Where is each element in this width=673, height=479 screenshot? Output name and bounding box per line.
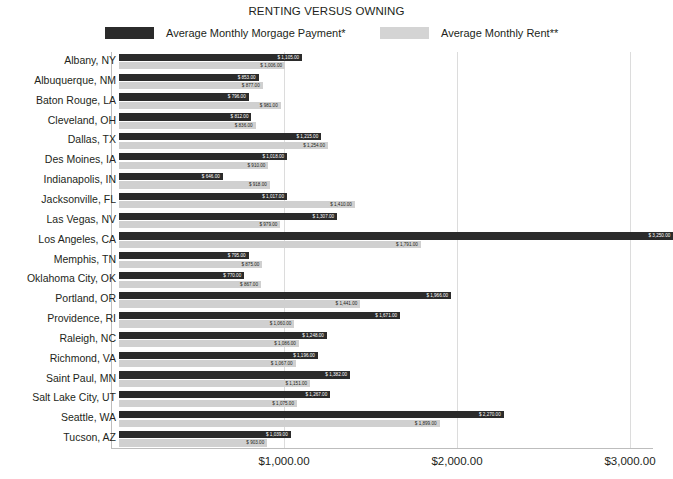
bar-value-label: $ 1,105.00 (276, 54, 300, 61)
bar-rent: $ 1,075.00 (119, 400, 297, 407)
bar-value-label: $ 979.00 (258, 221, 278, 228)
chart-row: Oklahoma City, OK$ 770.00$ 867.00 (0, 270, 653, 290)
bar-value-label: $ 3,250.00 (648, 232, 672, 239)
bar-value-label: $ 812.00 (230, 113, 250, 120)
legend-swatch-mortgage (105, 27, 154, 39)
bar-value-label: $ 1,441.00 (335, 300, 359, 307)
chart-row: Tucson, AZ$ 1,039.00$ 903.00 (0, 429, 653, 449)
bar-value-label: $ 646.00 (201, 173, 221, 180)
bar-value-label: $ 981.00 (259, 102, 279, 109)
bar-rent: $ 1,899.00 (119, 420, 440, 427)
chart-row: Portland, OR$ 1,966.00$ 1,441.00 (0, 290, 653, 310)
category-label: Portland, OR (0, 292, 116, 304)
category-label: Albany, NY (0, 54, 116, 66)
bar-value-label: $ 1,086.00 (273, 340, 297, 347)
category-label: Oklahoma City, OK (0, 272, 116, 284)
category-label: Jacksonville, FL (0, 193, 116, 205)
chart-row: Jacksonville, FL$ 1,017.00$ 1,410.00 (0, 191, 653, 211)
chart-row: Richmond, VA$ 1,196.00$ 1,067.00 (0, 350, 653, 370)
bar-rent: $ 910.00 (119, 162, 268, 169)
category-label: Memphis, TN (0, 253, 116, 265)
bar-mortgage: $ 812.00 (119, 113, 251, 120)
bar-value-label: $ 1,410.00 (329, 201, 353, 208)
bar-value-label: $ 1,966.00 (425, 292, 449, 299)
category-label: Cleveland, OH (0, 114, 116, 126)
bar-rent: $ 1,086.00 (119, 340, 299, 347)
bar-value-label: $ 1,067.00 (270, 360, 294, 367)
bar-rent: $ 1,060.00 (119, 320, 294, 327)
bar-mortgage: $ 3,250.00 (119, 232, 673, 239)
category-label: Las Vegas, NV (0, 213, 116, 225)
bar-rent: $ 1,254.00 (119, 142, 328, 149)
bar-value-label: $ 1,791.00 (395, 241, 419, 248)
chart-row: Providence, RI$ 1,671.00$ 1,060.00 (0, 310, 653, 330)
category-label: Seattle, WA (0, 411, 116, 423)
bar-value-label: $ 853.00 (237, 74, 257, 81)
category-label: Indianapolis, IN (0, 173, 116, 185)
chart-title: RENTING VERSUS OWNING (0, 5, 653, 17)
bar-value-label: $ 1,018.00 (261, 153, 285, 160)
x-tick-label: $1,000.00 (258, 455, 309, 467)
chart-row: Las Vegas, NV$ 1,307.00$ 979.00 (0, 211, 653, 231)
bar-rent: $ 867.00 (119, 281, 261, 288)
bar-mortgage: $ 1,105.00 (119, 54, 302, 61)
bar-rent: $ 875.00 (119, 261, 262, 268)
chart-row: Indianapolis, IN$ 646.00$ 918.00 (0, 171, 653, 191)
bar-value-label: $ 2,270.00 (478, 411, 502, 418)
bar-value-label: $ 875.00 (240, 261, 260, 268)
chart-row: Saint Paul, MN$ 1,382.00$ 1,151.00 (0, 370, 653, 390)
bar-value-label: $ 836.00 (234, 122, 254, 129)
x-axis-line (111, 448, 653, 449)
bar-value-label: $ 1,196.00 (292, 352, 316, 359)
bar-mortgage: $ 1,267.00 (119, 391, 330, 398)
bar-value-label: $ 877.00 (241, 82, 261, 89)
plot-area: Albany, NY$ 1,105.00$ 1,006.00Albuquerqu… (0, 52, 653, 449)
bar-value-label: $ 1,151.00 (284, 380, 308, 387)
bar-rent: $ 1,410.00 (119, 201, 355, 208)
bar-value-label: $ 1,382.00 (324, 371, 348, 378)
bar-rent: $ 1,067.00 (119, 360, 296, 367)
legend-entry-mortgage: Average Monthly Morgage Payment* (105, 25, 346, 41)
bar-mortgage: $ 1,248.00 (119, 332, 327, 339)
bar-mortgage: $ 1,966.00 (119, 292, 451, 299)
bar-mortgage: $ 1,039.00 (119, 431, 291, 438)
bar-mortgage: $ 2,270.00 (119, 411, 504, 418)
x-tick-label: $3,000.00 (604, 455, 655, 467)
chart-row: Dallas, TX$ 1,215.00$ 1,254.00 (0, 131, 653, 151)
bar-mortgage: $ 1,382.00 (119, 371, 350, 378)
bar-value-label: $ 770.00 (222, 272, 242, 279)
bar-rent: $ 918.00 (119, 181, 270, 188)
x-axis-tick-labels: $1,000.00$2,000.00$3,000.00 (0, 455, 653, 475)
bar-rent: $ 1,151.00 (119, 380, 310, 387)
bar-value-label: $ 1,254.00 (302, 142, 326, 149)
category-label: Los Angeles, CA (0, 233, 116, 245)
chart-row: Des Moines, IA$ 1,018.00$ 910.00 (0, 151, 653, 171)
bar-value-label: $ 1,215.00 (295, 133, 319, 140)
category-label: Salt Lake City, UT (0, 391, 116, 403)
bar-rent: $ 981.00 (119, 102, 281, 109)
bar-mortgage: $ 795.00 (119, 252, 249, 259)
bar-mortgage: $ 770.00 (119, 272, 244, 279)
chart-legend: Average Monthly Morgage Payment* Average… (105, 25, 585, 43)
bar-mortgage: $ 1,017.00 (119, 193, 287, 200)
bar-value-label: $ 1,075.00 (271, 400, 295, 407)
chart-row: Los Angeles, CA$ 3,250.00$ 1,791.00 (0, 231, 653, 251)
chart-row: Baton Rouge, LA$ 796.00$ 981.00 (0, 92, 653, 112)
chart-row: Seattle, WA$ 2,270.00$ 1,899.00 (0, 409, 653, 429)
bar-value-label: $ 796.00 (227, 93, 247, 100)
bar-mortgage: $ 796.00 (119, 93, 249, 100)
bar-value-label: $ 1,060.00 (269, 320, 293, 327)
bar-value-label: $ 910.00 (247, 162, 267, 169)
legend-label-mortgage: Average Monthly Morgage Payment* (166, 27, 346, 39)
chart-row: Albany, NY$ 1,105.00$ 1,006.00 (0, 52, 653, 72)
bar-value-label: $ 903.00 (245, 439, 265, 446)
bar-rows: Albany, NY$ 1,105.00$ 1,006.00Albuquerqu… (0, 52, 653, 449)
bar-rent: $ 1,791.00 (119, 241, 421, 248)
bar-value-label: $ 1,267.00 (304, 391, 328, 398)
category-label: Albuquerque, NM (0, 74, 116, 86)
category-label: Providence, RI (0, 312, 116, 324)
bar-rent: $ 1,441.00 (119, 300, 360, 307)
bar-value-label: $ 795.00 (227, 252, 247, 259)
chart-row: Memphis, TN$ 795.00$ 875.00 (0, 251, 653, 271)
